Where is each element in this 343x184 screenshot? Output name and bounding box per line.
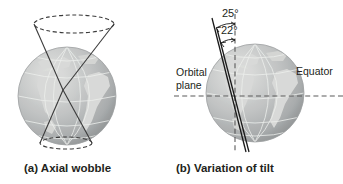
- angle-label-25: 25°: [222, 7, 239, 19]
- angle-label-22: 22°: [221, 24, 238, 36]
- figure-svg: (a) Axial wobble: [0, 0, 343, 184]
- panel-b-caption: (b) Variation of tilt: [176, 162, 274, 174]
- orbital-plane-label-line2: plane: [176, 79, 202, 91]
- panel-a-caption: (a) Axial wobble: [24, 162, 111, 174]
- equator-label: Equator: [296, 65, 333, 77]
- figure-root: (a) Axial wobble: [0, 0, 343, 184]
- orbital-plane-label-line1: Orbital: [176, 66, 207, 78]
- globe-b: [206, 44, 304, 142]
- globe-a: [18, 47, 116, 145]
